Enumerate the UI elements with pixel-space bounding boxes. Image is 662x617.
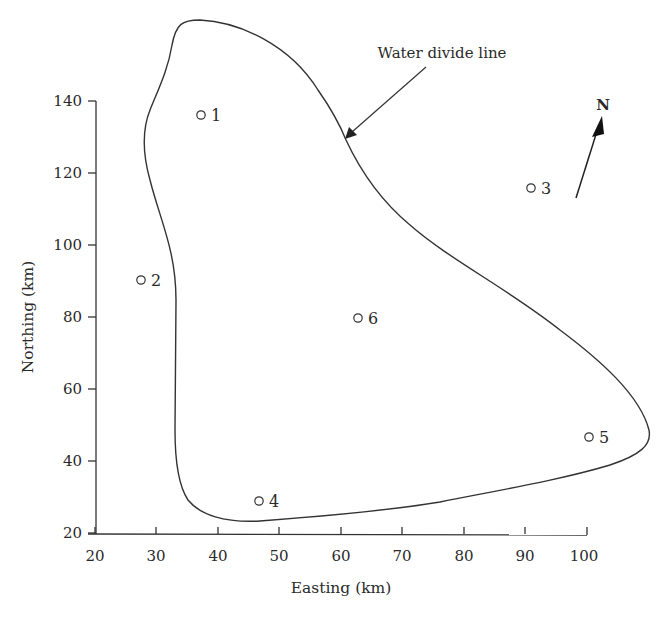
y-axis: [88, 101, 96, 534]
y-tick-label: 40: [63, 452, 82, 470]
station-label-1: 1: [211, 106, 221, 125]
x-tick-label: 90: [515, 547, 534, 565]
y-axis-title: Northing (km): [19, 261, 37, 374]
station-label-3: 3: [541, 179, 551, 198]
y-tick-labels: 140 120 100 80 60 40 20: [53, 92, 82, 542]
x-tick-label: 60: [331, 547, 350, 565]
north-arrow-shaft: [576, 128, 598, 198]
x-tick-label: 100: [570, 547, 599, 565]
x-tick-label: 80: [454, 547, 473, 565]
y-tick-label: 20: [63, 524, 82, 542]
x-tick-label: 20: [85, 547, 104, 565]
station-points: [137, 111, 593, 505]
x-axis: [88, 527, 587, 535]
x-tick-label: 70: [392, 547, 411, 565]
station-marker-2: [137, 276, 145, 284]
annotation-label: Water divide line: [378, 44, 507, 62]
station-marker-5: [585, 433, 593, 441]
station-marker-3: [527, 184, 535, 192]
x-tick-label: 50: [269, 547, 288, 565]
x-tick-label: 30: [146, 547, 165, 565]
x-tick-label: 40: [208, 547, 227, 565]
station-marker-6: [354, 314, 362, 322]
north-arrowhead-icon: [592, 116, 604, 137]
north-label: N: [596, 96, 610, 114]
y-tick-label: 60: [63, 380, 82, 398]
y-tick-label: 80: [63, 308, 82, 326]
chart-canvas: 140 120 100 80 60 40 20 20 30 40 50 60 7…: [0, 0, 662, 617]
station-label-5: 5: [599, 428, 609, 447]
station-label-2: 2: [151, 271, 161, 290]
water-divide-boundary: [144, 20, 649, 521]
x-tick-labels: 20 30 40 50 60 70 80 90 100: [85, 547, 598, 565]
y-tick-label: 100: [53, 236, 82, 254]
north-arrow: N: [576, 96, 610, 198]
y-tick-label: 120: [53, 164, 82, 182]
water-divide-annotation: Water divide line: [345, 44, 507, 139]
station-marker-1: [197, 111, 205, 119]
annotation-arrow-shaft: [352, 67, 426, 132]
x-axis-title: Easting (km): [291, 579, 392, 597]
y-tick-label: 140: [53, 92, 82, 110]
station-label-4: 4: [269, 492, 279, 511]
station-marker-4: [255, 497, 263, 505]
station-labels: 1 2 3 4 5 6: [151, 106, 609, 511]
station-label-6: 6: [368, 309, 378, 328]
